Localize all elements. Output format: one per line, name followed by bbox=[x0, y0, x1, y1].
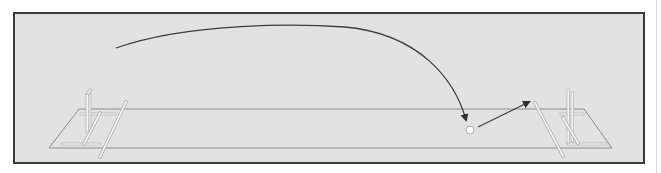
cricket-pitch-diagram bbox=[0, 0, 661, 173]
pitch-outline bbox=[49, 109, 612, 148]
bounce-direction-arrow bbox=[478, 102, 529, 127]
ball-icon bbox=[466, 126, 474, 134]
left-wicket bbox=[61, 88, 126, 157]
left-stumps-icon bbox=[86, 88, 92, 132]
right-wicket bbox=[535, 89, 607, 156]
ball-trajectory-arrow bbox=[116, 25, 466, 120]
